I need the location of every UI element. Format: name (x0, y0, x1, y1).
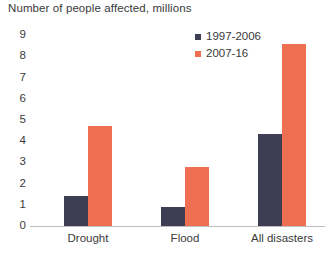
y-axis-tick-label: 4 (4, 135, 26, 147)
y-axis-tick-label: 8 (4, 51, 26, 63)
bar-drought-1997-2006 (64, 196, 88, 226)
y-axis-tick-label: 3 (4, 157, 26, 169)
x-axis-label-drought: Drought (68, 232, 109, 244)
legend-item-1997-2006: 1997-2006 (195, 30, 261, 44)
bar-flood-1997-2006 (161, 207, 185, 226)
chart-title: Number of people affected, millions (8, 2, 192, 14)
x-axis-baseline (30, 226, 325, 227)
bar-chart: Number of people affected, millions 9876… (0, 0, 329, 257)
y-axis-tick-label: 7 (4, 72, 26, 84)
y-axis-tick-label: 0 (4, 220, 26, 232)
y-axis-tick-label: 6 (4, 93, 26, 105)
bars-layer (30, 26, 325, 226)
x-axis-label-flood: Flood (171, 232, 200, 244)
legend-swatch-icon (195, 34, 201, 40)
chart-legend: 1997-20062007-16 (195, 30, 261, 64)
y-axis-tick-label: 1 (4, 199, 26, 211)
y-axis: 9876543210 (0, 0, 26, 257)
bar-flood-2007-16 (185, 167, 209, 226)
legend-item-2007-16: 2007-16 (195, 47, 261, 61)
y-axis-tick-label: 2 (4, 178, 26, 190)
bar-all-disasters-1997-2006 (258, 134, 282, 226)
y-axis-tick-label: 9 (4, 29, 26, 41)
legend-label: 1997-2006 (206, 31, 261, 43)
bar-drought-2007-16 (88, 126, 112, 226)
y-axis-tick-label: 5 (4, 114, 26, 126)
bar-all-disasters-2007-16 (282, 44, 306, 226)
legend-swatch-icon (195, 51, 201, 57)
legend-label: 2007-16 (206, 48, 248, 60)
x-axis-label-all-disasters: All disasters (251, 232, 313, 244)
